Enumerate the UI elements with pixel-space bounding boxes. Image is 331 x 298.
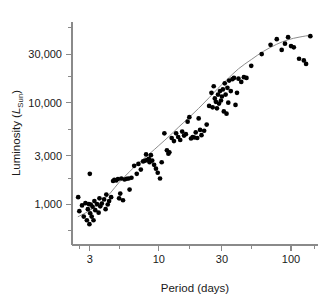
data-point — [224, 111, 229, 116]
y-axis-title-group: Luminosity (LSun) — [10, 90, 25, 176]
y-tick-label: 10,000 — [28, 97, 62, 109]
y-axis-title: Luminosity (LSun) — [10, 90, 25, 176]
data-point — [219, 98, 224, 103]
y-tick-label: 30,000 — [28, 48, 62, 60]
y-axis-tick-labels: 1,0003,00010,00030,000 — [28, 48, 62, 210]
data-point — [195, 136, 200, 141]
data-point — [99, 201, 104, 206]
data-point — [304, 62, 309, 67]
data-point — [225, 85, 230, 90]
data-point — [102, 197, 107, 202]
data-point — [228, 89, 233, 94]
data-point — [291, 45, 296, 50]
data-point — [274, 37, 279, 42]
data-point — [244, 76, 249, 81]
data-point — [91, 218, 96, 223]
x-tick-label: 30 — [216, 253, 228, 265]
y-axis-title-suffix: ) — [10, 90, 22, 94]
data-point — [77, 209, 82, 214]
y-axis-ticks — [66, 27, 72, 231]
data-point — [268, 42, 273, 47]
data-point — [144, 152, 149, 157]
data-point — [76, 195, 81, 200]
data-point — [215, 106, 220, 111]
y-tick-label: 3,000 — [34, 150, 62, 162]
data-point — [204, 122, 209, 127]
y-axis-title-subscript: Sun — [16, 94, 25, 108]
data-point — [185, 119, 190, 124]
data-point — [87, 171, 92, 176]
data-point — [199, 133, 204, 138]
data-point — [226, 100, 231, 105]
data-point — [155, 170, 160, 175]
y-axis-title-prefix: Luminosity ( — [10, 114, 22, 176]
data-point — [222, 81, 227, 86]
y-tick-label: 1,000 — [34, 198, 62, 210]
x-tick-label: 3 — [87, 253, 93, 265]
data-point — [81, 214, 86, 219]
data-point — [109, 195, 114, 200]
data-point — [121, 198, 126, 203]
x-tick-label: 100 — [282, 253, 300, 265]
data-point — [223, 92, 228, 97]
data-point — [297, 56, 302, 61]
data-point — [233, 103, 238, 108]
data-point — [221, 87, 226, 92]
data-point — [239, 80, 244, 85]
data-point — [279, 48, 284, 53]
data-point — [154, 166, 159, 171]
fitted-trend-curve — [78, 35, 310, 216]
x-axis-tick-labels: 31030100 — [87, 253, 300, 265]
data-point — [184, 132, 189, 137]
data-point — [235, 90, 240, 95]
scatter-plot-svg: 1,0003,00010,00030,000 31030100 Period (… — [0, 0, 331, 298]
data-point — [283, 41, 288, 46]
data-point — [187, 115, 192, 120]
data-point — [127, 187, 132, 192]
data-point — [103, 207, 108, 212]
data-point — [96, 210, 101, 215]
data-point — [104, 192, 109, 197]
data-point — [210, 105, 215, 110]
x-axis-title: Period (days) — [161, 282, 230, 294]
period-luminosity-figure: 1,0003,00010,00030,000 31030100 Period (… — [0, 0, 331, 298]
data-point — [129, 175, 134, 180]
data-point — [87, 222, 92, 227]
x-axis-ticks — [79, 245, 314, 251]
data-point — [286, 35, 291, 40]
data-point — [136, 162, 141, 167]
data-point — [158, 176, 163, 181]
data-point — [162, 131, 167, 136]
data-point — [196, 116, 201, 121]
data-points-group — [76, 34, 313, 227]
data-point — [308, 34, 313, 39]
data-point — [198, 128, 203, 133]
data-point — [118, 191, 123, 196]
data-point — [97, 196, 102, 201]
data-point — [249, 64, 254, 69]
data-point — [259, 52, 264, 57]
data-point — [193, 130, 198, 135]
data-point — [202, 128, 207, 133]
x-tick-label: 10 — [153, 253, 165, 265]
data-point — [178, 138, 183, 143]
data-point — [132, 163, 137, 168]
data-point — [149, 153, 154, 158]
data-point — [150, 158, 155, 163]
data-point — [172, 139, 177, 144]
data-point — [159, 160, 164, 165]
data-point — [138, 167, 143, 172]
data-point — [209, 90, 214, 95]
data-point — [134, 171, 139, 176]
data-point — [85, 218, 90, 223]
data-point — [232, 76, 237, 81]
data-point — [211, 84, 216, 89]
data-point — [167, 150, 172, 155]
data-point — [86, 207, 91, 212]
